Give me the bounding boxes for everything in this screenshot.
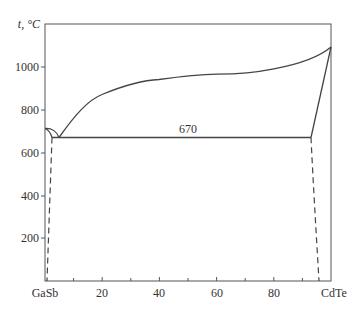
x-tick-20: 20 [96, 286, 108, 300]
gasb-solvus [47, 138, 52, 282]
x-tick-80: 80 [268, 286, 280, 300]
y-axis-label: t, °C [18, 17, 41, 31]
phase-diagram: 1000 800 600 400 200 t, °C GaSb 20 40 60… [0, 0, 361, 313]
y-tick-600: 600 [21, 146, 39, 160]
cdte-solvus [311, 138, 319, 282]
x-ticks [74, 277, 303, 281]
y-tick-800: 800 [21, 103, 39, 117]
x-tick-40: 40 [153, 286, 165, 300]
y-tick-400: 400 [21, 189, 39, 203]
x-label-gasb: GaSb [32, 286, 59, 300]
cdte-solidus [311, 47, 331, 138]
x-tick-60: 60 [211, 286, 223, 300]
plot-frame [45, 24, 331, 281]
y-tick-1000: 1000 [15, 60, 39, 74]
y-ticks [41, 67, 45, 238]
x-label-cdte: CdTe [321, 286, 347, 300]
eutectic-temperature-label: 670 [179, 122, 197, 136]
y-tick-200: 200 [21, 231, 39, 245]
gasb-loop-lower [45, 129, 52, 138]
